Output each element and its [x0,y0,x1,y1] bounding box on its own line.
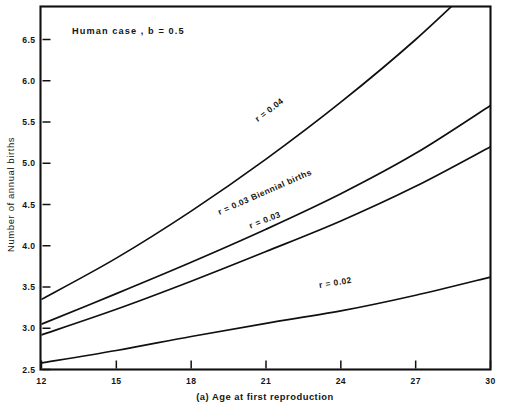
y-tick-label: 4.5 [22,200,35,210]
y-tick-label: 5.0 [22,158,35,168]
curve-label-2: r = 0.03 Biennial births [216,167,313,217]
curve-series-3 [42,147,491,335]
curve-label-4: r = 0.02 [318,275,352,290]
curve-label-1: r = 0.04 [253,96,285,124]
curve-label-3: r = 0.03 [248,209,282,231]
y-tick-label: 6.0 [22,76,35,86]
y-tick-label: 3.5 [22,282,35,292]
x-tick-label: 15 [111,376,121,386]
y-tick-marks [43,40,51,370]
x-tick-label: 30 [485,376,495,386]
y-tick-labels: 2.53.03.54.04.55.05.56.06.5 [22,35,35,375]
x-tick-label: 12 [36,376,46,386]
x-tick-labels: 12151821242730 [36,376,495,386]
data-curves [42,0,491,363]
chart-title: Human case , b = 0.5 [72,26,185,36]
x-tick-label: 21 [261,376,271,386]
x-tick-marks [42,361,491,369]
y-tick-label: 3.0 [22,323,35,333]
x-tick-label: 18 [186,376,196,386]
curve-series-4 [42,277,491,363]
x-tick-label: 24 [336,376,346,386]
curve-labels: r = 0.04r = 0.03 Biennial birthsr = 0.03… [216,96,352,290]
y-tick-label: 5.5 [22,117,35,127]
y-tick-label: 4.0 [22,241,35,251]
y-axis-title: Number of annual births [5,137,16,252]
y-tick-label: 2.5 [22,365,35,375]
x-tick-label: 27 [410,376,420,386]
x-axis-caption: (a) Age at first reproduction [196,391,334,402]
line-chart: 2.53.03.54.04.55.05.56.06.5 121518212427… [0,0,508,408]
figure-container: 2.53.03.54.04.55.05.56.06.5 121518212427… [0,0,508,408]
y-tick-label: 6.5 [22,35,35,45]
